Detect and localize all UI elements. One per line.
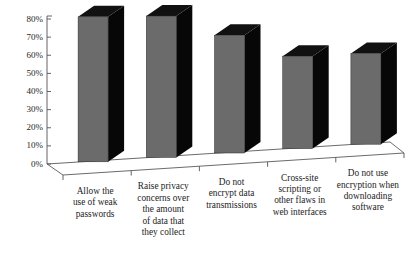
x-axis-category-label: Cross-sitescripting orother flaws inweb … — [273, 173, 327, 217]
y-axis-tick-label: 0% — [31, 159, 44, 169]
x-axis-category-label: Do notencrypt datatransmissions — [206, 177, 257, 210]
bar-side-face — [381, 43, 397, 145]
bar-side-face — [313, 45, 329, 148]
y-axis-tick-label: 40% — [27, 86, 44, 96]
y-axis-tick-label: 60% — [27, 50, 44, 60]
y-axis-tick-label: 50% — [27, 68, 44, 78]
bar-group[interactable] — [351, 43, 397, 145]
bar-side-face — [108, 6, 124, 162]
bar-group[interactable] — [78, 6, 124, 162]
bar-side-face — [245, 24, 261, 153]
bar-group[interactable] — [146, 5, 192, 157]
y-axis-tick-label: 70% — [27, 32, 44, 42]
bar-front-face — [283, 56, 313, 148]
x-axis-category-label: Allow theuse of weakpasswords — [73, 186, 118, 219]
floor-right-edge — [390, 142, 404, 153]
x-axis-category-label: Raise privacyconcerns overthe amountof d… — [137, 181, 190, 237]
bar-front-face — [146, 16, 176, 157]
bar-side-face — [176, 5, 192, 157]
bar-front-face — [351, 54, 381, 145]
chart-container: 0%10%20%30%40%50%60%70%80%Allow theuse o… — [0, 0, 416, 275]
bar-group[interactable] — [215, 24, 261, 153]
y-axis-tick-label: 30% — [27, 104, 44, 114]
y-axis-tick-label: 80% — [27, 14, 44, 24]
bar-group[interactable] — [283, 45, 329, 148]
bar-front-face — [78, 17, 108, 162]
y-axis-tick-label: 20% — [27, 122, 44, 132]
bar-front-face — [215, 35, 245, 153]
y-axis-tick-label: 10% — [27, 140, 44, 150]
x-axis-category-label: Do not useencryption whendownloadingsoft… — [337, 168, 400, 212]
floor-origin-depth — [47, 164, 63, 175]
x-axis-categories: Allow theuse of weakpasswordsRaise priva… — [63, 153, 404, 237]
bar-chart-3d: 0%10%20%30%40%50%60%70%80%Allow theuse o… — [0, 0, 416, 275]
y-axis: 0%10%20%30%40%50%60%70%80% — [27, 14, 53, 169]
